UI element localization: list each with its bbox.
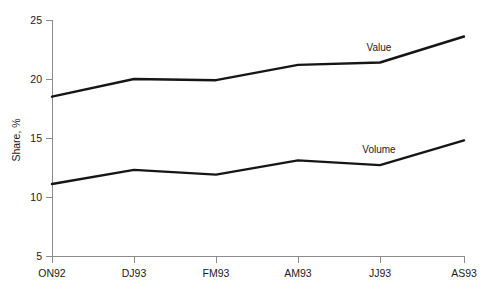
series-annotation-volume: Volume bbox=[362, 144, 396, 155]
x-tick-label-5: AS93 bbox=[451, 267, 477, 279]
y-tick-label-5: 5 bbox=[36, 250, 42, 262]
series-annotation-value: Value bbox=[367, 42, 392, 53]
x-tick-label-0: ON92 bbox=[38, 267, 66, 279]
x-tick-label-4: JJ93 bbox=[369, 267, 391, 279]
y-tick-label-15: 15 bbox=[30, 132, 42, 144]
line-chart-plot: 25 20 15 10 5 Share, % ON92 DJ93 FM93 AM… bbox=[0, 0, 492, 292]
y-tick-label-25: 25 bbox=[30, 14, 42, 26]
y-axis-title: Share, % bbox=[10, 118, 22, 161]
chart-container: 25 20 15 10 5 Share, % ON92 DJ93 FM93 AM… bbox=[0, 0, 492, 292]
x-tick-label-1: DJ93 bbox=[122, 267, 147, 279]
y-tick-label-10: 10 bbox=[30, 191, 42, 203]
y-tick-label-20: 20 bbox=[30, 73, 42, 85]
series-line-value bbox=[52, 37, 464, 97]
x-tick-label-3: AM93 bbox=[284, 267, 312, 279]
x-tick-label-2: FM93 bbox=[203, 267, 230, 279]
